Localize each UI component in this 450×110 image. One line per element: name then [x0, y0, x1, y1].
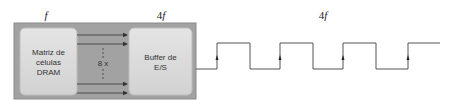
- buffer-label-line1: Buffer de: [144, 53, 177, 62]
- dram-label-line2: células: [36, 58, 61, 67]
- bus-width-label: 8 x: [98, 59, 109, 68]
- clock-waveform: [196, 43, 440, 69]
- dram-prefetch-diagram: f 4f 4f Matriz de células DRAM Buffer de…: [0, 0, 450, 110]
- dram-label-line1: Matriz de: [32, 48, 65, 57]
- dram-label-line3: DRAM: [37, 68, 61, 77]
- waveform-frequency-label: 4f: [319, 9, 330, 21]
- buffer-frequency-label: 4f: [157, 9, 168, 21]
- dram-frequency-label: f: [44, 9, 49, 21]
- buffer-label-line2: E/S: [154, 63, 167, 72]
